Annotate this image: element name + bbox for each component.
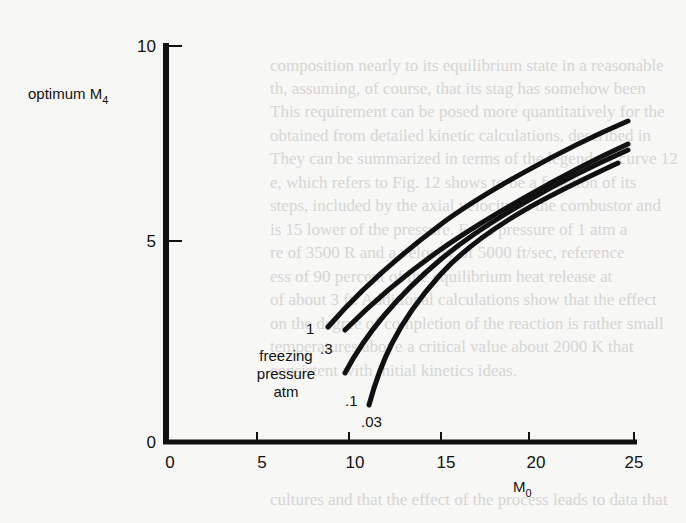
svg-text:atm: atm [273,383,298,400]
freezing-pressure-annotation: freezing pressure atm [257,347,315,400]
y-tick-label: 5 [147,232,156,251]
curve-0.03atm [369,163,618,405]
x-tick-label: 10 [346,453,365,472]
x-tick-label: 0 [165,453,174,472]
y-axis-label: optimum M4 [28,85,108,106]
series-label: .03 [361,413,382,430]
svg-text:pressure: pressure [257,365,315,382]
x-tick-label: 5 [257,453,266,472]
series-label: .1 [345,392,358,409]
x-axis-label: M0 [513,478,532,499]
series-label: .3 [320,340,333,357]
y-ticks: 10 5 0 [137,37,182,452]
y-tick-label: 10 [137,37,156,56]
chart: 10 5 0 0 5 10 15 20 25 optimum M4 M0 1 .… [0,0,686,523]
x-ticks: 0 5 10 15 20 25 [165,432,643,472]
y-tick-label: 0 [147,433,156,452]
x-tick-label: 20 [527,453,546,472]
series-label: 1 [306,320,314,337]
svg-text:freezing: freezing [259,347,312,364]
curve-0.1atm [345,150,628,373]
x-tick-label: 15 [437,453,456,472]
curves [328,121,628,405]
x-tick-label: 25 [625,453,644,472]
